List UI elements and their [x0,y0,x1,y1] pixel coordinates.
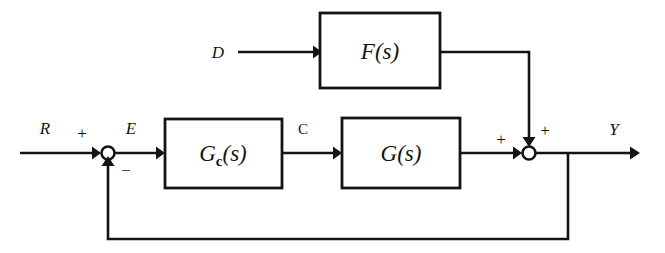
block-feedforward-label: F(s) [360,39,399,64]
control-system-block-diagram: F(s) Gc(s) [0,0,665,253]
block-controller-label-args: (s) [223,141,247,166]
disturbance-label: D [211,43,225,62]
arrowhead-output [630,147,640,160]
block-controller[interactable]: Gc(s) [165,119,282,188]
control-label: C [298,121,308,137]
block-plant[interactable]: G(s) [342,118,460,188]
block-diagram-figure: F(s) Gc(s) [0,0,665,253]
control-wire [282,147,342,160]
plant-output-wire [460,147,522,160]
block-controller-label-main: G [199,141,216,166]
block-plant-label: G(s) [381,141,422,166]
error-junction-minus-sign: − [121,161,131,180]
arrowhead-into-error-junction [92,147,101,160]
disturbance-input-wire [238,46,322,59]
output-junction-plus-sign-right: + [540,121,550,140]
error-junction-plus-sign: + [77,124,87,143]
output-junction[interactable] [523,147,536,160]
output-wire [536,147,641,160]
reference-input-wire [20,147,101,160]
block-controller-label: Gc(s) [199,141,247,169]
arrowhead-into-output-junction-left [513,147,522,160]
block-feedforward[interactable]: F(s) [320,13,440,88]
output-junction-circle[interactable] [523,147,536,160]
error-wire [115,147,166,160]
error-label: E [125,119,137,138]
output-junction-plus-sign-left: + [496,130,506,149]
output-label: Y [609,120,620,139]
reference-label: R [39,119,51,138]
